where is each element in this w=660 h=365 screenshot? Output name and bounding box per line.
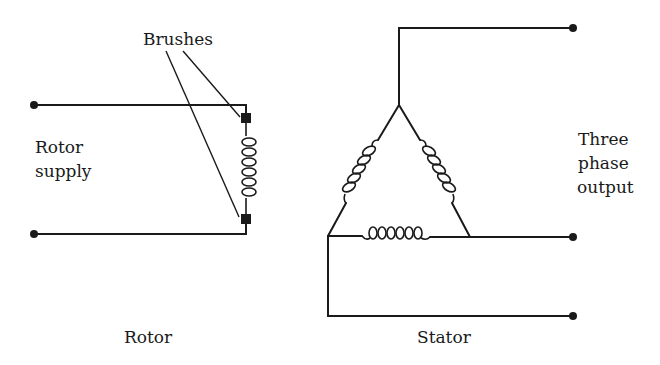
rotor-coil bbox=[242, 123, 256, 214]
brush-top bbox=[241, 113, 251, 123]
delta-left-winding bbox=[328, 105, 399, 236]
output-terminal-2 bbox=[569, 233, 577, 241]
stator-circuit bbox=[328, 24, 577, 320]
stator-caption: Stator bbox=[417, 326, 471, 348]
three-phase-label-line1: Three bbox=[578, 128, 629, 150]
rotor-terminal-top bbox=[30, 101, 38, 109]
three-phase-label-line2: phase bbox=[578, 152, 629, 174]
output-terminal-1 bbox=[569, 24, 577, 32]
delta-bottom-winding bbox=[328, 227, 470, 239]
rotor-supply-label-line1: Rotor bbox=[35, 136, 83, 158]
delta-right-winding bbox=[399, 105, 470, 237]
output-terminal-3 bbox=[569, 312, 577, 320]
brush-leader-bottom bbox=[166, 51, 239, 217]
three-phase-label-line3: output bbox=[577, 176, 634, 198]
rotor-caption: Rotor bbox=[124, 326, 172, 348]
brushes-label: Brushes bbox=[143, 28, 213, 50]
brush-leader-top bbox=[183, 51, 240, 117]
brush-bottom bbox=[241, 214, 251, 224]
rotor-terminal-bottom bbox=[30, 230, 38, 238]
rotor-supply-label-line2: supply bbox=[35, 160, 91, 182]
alternator-diagram bbox=[0, 0, 660, 365]
